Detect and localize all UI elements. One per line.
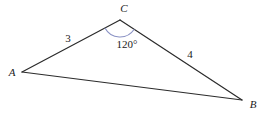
vertex-label-b: B — [250, 98, 257, 110]
edge-a-b — [22, 72, 242, 100]
edge-c-b — [120, 20, 242, 100]
angle-arc-c — [105, 28, 134, 37]
vertex-label-c: C — [120, 2, 128, 14]
edge-a-c — [22, 20, 120, 72]
vertex-label-a: A — [8, 66, 16, 78]
triangle-diagram-svg: A B C 3 4 120° — [0, 0, 265, 120]
side-length-label-cb: 4 — [187, 48, 193, 60]
triangle-figure: A B C 3 4 120° — [0, 0, 265, 120]
side-length-label-ac: 3 — [65, 32, 71, 44]
angle-measure-label-c: 120° — [117, 38, 138, 50]
